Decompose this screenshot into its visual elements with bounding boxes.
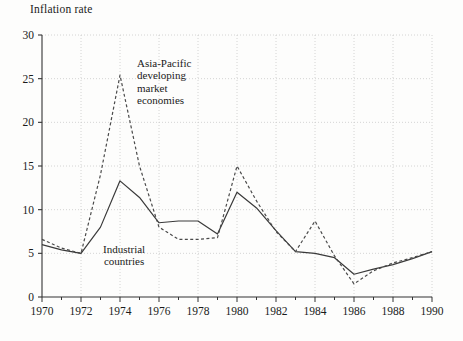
x-tick-label: 1988 <box>382 305 405 317</box>
y-tick-label: 5 <box>28 247 34 259</box>
x-tick-label: 1970 <box>31 305 54 317</box>
annotation-asia-pacific: Asia-Pacific developing market economies <box>137 57 191 107</box>
x-tick-label: 1974 <box>109 305 132 317</box>
x-tick-label: 1976 <box>148 305 171 317</box>
inflation-rate-chart-figure: Inflation rate 0510152025301970197219741… <box>0 0 463 341</box>
x-tick-label: 1978 <box>187 305 210 317</box>
x-tick-label: 1984 <box>304 305 327 317</box>
x-tick-label: 1986 <box>343 305 366 317</box>
x-tick-label: 1990 <box>421 305 444 317</box>
y-tick-label: 0 <box>28 291 34 303</box>
y-tick-label: 15 <box>23 160 35 172</box>
x-tick-label: 1972 <box>70 305 93 317</box>
y-tick-label: 20 <box>23 116 35 128</box>
annotation-industrial-countries: Industrial countries <box>103 243 145 268</box>
y-tick-label: 25 <box>23 73 35 85</box>
y-tick-label: 30 <box>23 29 35 41</box>
y-tick-label: 10 <box>23 204 35 216</box>
x-tick-label: 1980 <box>226 305 249 317</box>
chart-canvas: 0510152025301970197219741976197819801982… <box>0 0 463 341</box>
x-tick-label: 1982 <box>265 305 288 317</box>
